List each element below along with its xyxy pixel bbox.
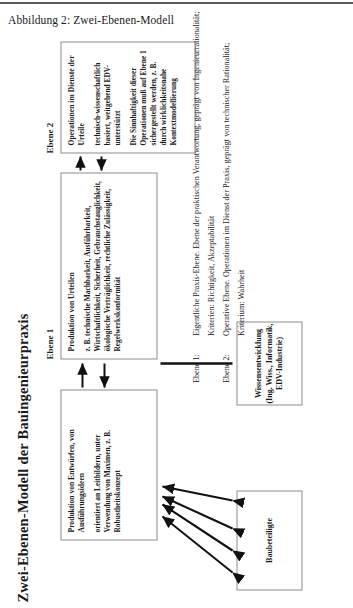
figure-stage: Zwei-Ebenen-Modell der Bauingenieurpraxi…: [0, 32, 353, 608]
figure-caption: Abbildung 2: Zwei-Ebenen-Modell: [8, 14, 174, 26]
legend-row: Kriterium: Wahrheit: [236, 0, 248, 383]
legend-text: Kriterium: Wahrheit: [236, 0, 248, 336]
header-rule: [0, 2, 353, 4]
legend-text: Kriterien: Richtigkeit, Akzeptabilität: [206, 0, 218, 336]
legend-text: Eigentliche Praxis-Ebene. Ebene der prak…: [191, 0, 203, 336]
connector-arrows: [0, 32, 353, 608]
legend-row: Kriterien: Richtigkeit, Akzeptabilität: [206, 0, 218, 383]
legend-key: [206, 336, 218, 383]
rotated-canvas: Zwei-Ebenen-Modell der Bauingenieurpraxi…: [0, 32, 353, 608]
legend-row: Ebene 1: Eigentliche Praxis-Ebene. Ebene…: [191, 0, 203, 383]
legend-block: Ebene 1: Eigentliche Praxis-Ebene. Ebene…: [191, 0, 251, 383]
legend-row: Ebene 2: Operative Ebene. Operationen im…: [221, 0, 233, 383]
legend-text: Operative Ebene. Operationen im Dienst d…: [221, 0, 233, 336]
legend-key: Ebene 1:: [191, 336, 203, 383]
legend-key: Ebene 2:: [221, 336, 233, 383]
legend-key: [236, 336, 248, 383]
